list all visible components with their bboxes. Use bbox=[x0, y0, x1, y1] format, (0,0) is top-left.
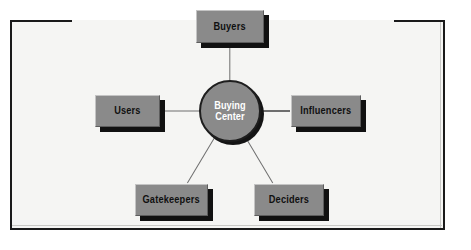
frame-bottom-edge bbox=[10, 228, 445, 230]
node-gatekeepers-label: Gatekeepers bbox=[143, 195, 200, 205]
connector-hub-to-influencers bbox=[260, 110, 290, 111]
node-users-label: Users bbox=[114, 106, 141, 116]
frame-left-edge bbox=[10, 20, 12, 230]
node-users[interactable]: Users bbox=[95, 95, 160, 127]
node-influencers[interactable]: Influencers bbox=[291, 95, 361, 127]
connector-hub-to-buyers bbox=[229, 44, 230, 81]
node-buyers-label: Buyers bbox=[214, 22, 246, 32]
frame-right-hairline bbox=[440, 22, 441, 228]
node-deciders[interactable]: Deciders bbox=[254, 184, 324, 216]
hub-buying-center[interactable]: Buying Center bbox=[199, 80, 261, 142]
node-gatekeepers[interactable]: Gatekeepers bbox=[135, 184, 208, 216]
frame-right-edge bbox=[443, 20, 445, 230]
node-influencers-label: Influencers bbox=[300, 106, 351, 116]
frame-top-right-edge bbox=[394, 20, 445, 22]
frame-top-left-edge bbox=[10, 20, 72, 22]
node-buyers[interactable]: Buyers bbox=[196, 10, 264, 43]
hub-label: Buying Center bbox=[214, 100, 245, 122]
diagram-canvas: Buyers Users Influencers Gatekeepers Dec… bbox=[0, 0, 471, 250]
frame-bottom-hairline bbox=[12, 225, 442, 226]
node-deciders-label: Deciders bbox=[269, 195, 309, 205]
